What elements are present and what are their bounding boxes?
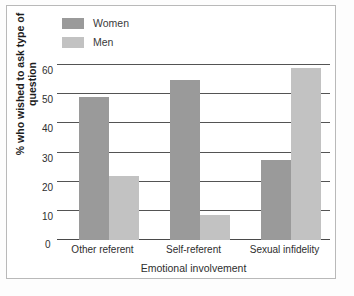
y-axis-tick-20: 20 [42, 183, 53, 193]
legend-item-women: Women [62, 15, 129, 31]
bar-women [170, 80, 200, 240]
figure: WomenMen % who wished to ask type of que… [0, 0, 354, 296]
bar-men [109, 176, 139, 240]
x-axis-tick-label: Self-referent [166, 245, 221, 255]
bar-group: Self-referent [148, 65, 239, 240]
y-axis-tick-40: 40 [42, 124, 53, 134]
legend: WomenMen [62, 15, 129, 53]
legend-label: Men [93, 37, 113, 48]
bar-groups: Other referentSelf-referentSexual infide… [57, 65, 330, 240]
legend-swatch-women [62, 18, 84, 29]
bar-group: Other referent [57, 65, 148, 240]
bar-group: Sexual infidelity [239, 65, 330, 240]
bar-women [79, 97, 109, 240]
y-axis-tick-10: 10 [42, 212, 53, 222]
y-axis-tick-50: 50 [42, 95, 53, 105]
y-axis-title: % who wished to ask type of question [14, 0, 38, 174]
y-axis-tick-zero: 0 [45, 240, 51, 250]
y-axis-tick-30: 30 [42, 154, 53, 164]
legend-item-men: Men [62, 34, 129, 50]
legend-label: Women [93, 18, 129, 29]
x-axis-title: Emotional involvement [57, 262, 330, 274]
x-axis-tick-label: Sexual infidelity [250, 245, 319, 255]
bar-women [261, 160, 291, 240]
legend-swatch-men [62, 37, 84, 48]
y-axis-tick-60: 60 [42, 66, 53, 76]
x-axis-tick-label: Other referent [71, 245, 133, 255]
bar-men [200, 215, 230, 240]
bar-men [291, 68, 321, 240]
plot-area: 102030405060 Other referentSelf-referent… [57, 65, 330, 240]
